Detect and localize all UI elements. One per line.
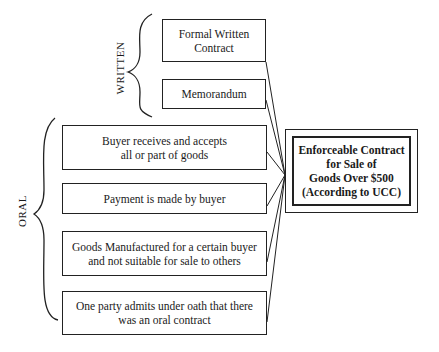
enforceable-contract-box: Enforceable Contract for Sale of Goods O… bbox=[292, 136, 411, 206]
admission-under-oath-box: One party admits under oath that there w… bbox=[62, 291, 267, 335]
written-group-label: WRITTEN bbox=[114, 38, 126, 98]
payment-by-buyer-box: Payment is made by buyer bbox=[62, 183, 267, 214]
memorandum-box: Memorandum bbox=[162, 79, 266, 109]
goods-manufactured-box: Goods Manufactured for a certain buyer a… bbox=[62, 231, 267, 276]
formal-written-contract-box: Formal Written Contract bbox=[162, 19, 266, 62]
buyer-accepts-goods-box: Buyer receives and accepts all or part o… bbox=[62, 125, 267, 170]
oral-group-label: ORAL bbox=[16, 191, 28, 231]
